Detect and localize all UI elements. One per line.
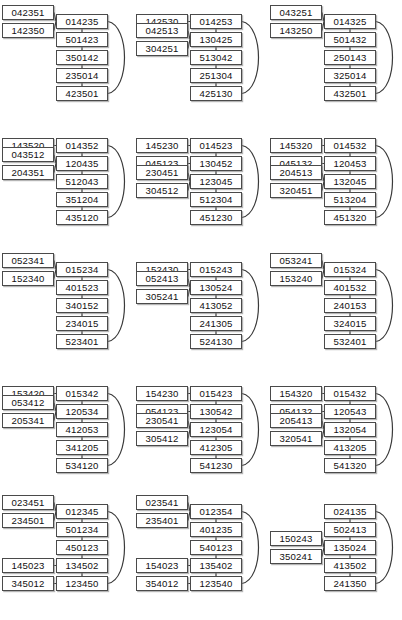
branch-node: 143250 <box>270 23 322 38</box>
branch-node: 152340 <box>2 271 54 286</box>
branch-node: 052341 <box>2 253 54 268</box>
branch-node: 042513 <box>136 23 188 38</box>
spine-node: 413052 <box>190 298 242 313</box>
wrap-edge <box>376 270 393 342</box>
spine-node: 014253 <box>190 14 242 29</box>
branch-node: 154320 <box>270 386 322 401</box>
spine-node: 123540 <box>190 576 242 591</box>
wrap-edge <box>376 512 393 584</box>
branch-node: 043512 <box>2 147 54 162</box>
branch-node: 150243 <box>270 531 322 546</box>
branch-node: 052413 <box>136 271 188 286</box>
spine-node: 413205 <box>324 440 376 455</box>
spine-node: 130425 <box>190 32 242 47</box>
wrap-edge <box>108 270 125 342</box>
spine-node: 532401 <box>324 334 376 349</box>
spine-node: 340152 <box>56 298 108 313</box>
wrap-edge <box>242 146 259 218</box>
spine-node: 120435 <box>56 156 108 171</box>
spine-node: 435120 <box>56 210 108 225</box>
branch-node: 354012 <box>136 576 188 591</box>
spine-node: 432501 <box>324 86 376 101</box>
branch-node: 320541 <box>270 431 322 446</box>
branch-node: 234501 <box>2 513 54 528</box>
wrap-edge <box>108 22 125 94</box>
diagram-panel: 0142531304255130422513044251301425300425… <box>134 0 268 124</box>
spine-node: 251304 <box>190 68 242 83</box>
diagram-panel: 0143255014322501433250144325010432511432… <box>268 0 402 124</box>
spine-node: 120453 <box>324 156 376 171</box>
spine-node: 123054 <box>190 422 242 437</box>
spine-node: 513204 <box>324 192 376 207</box>
spine-node: 130542 <box>190 404 242 419</box>
wrap-edge <box>242 270 259 342</box>
spine-node: 015432 <box>324 386 376 401</box>
branch-node: 304251 <box>136 41 188 56</box>
spine-node: 132045 <box>324 174 376 189</box>
branch-node: 154023 <box>136 558 188 573</box>
diagram-panel: 0154231305421230544123055412301542300541… <box>134 372 268 490</box>
branch-node: 204513 <box>270 165 322 180</box>
spine-node: 451230 <box>190 210 242 225</box>
spine-node: 015234 <box>56 262 108 277</box>
branch-node: 145320 <box>270 138 322 153</box>
spine-node: 012345 <box>56 504 108 519</box>
spine-node: 120543 <box>324 404 376 419</box>
diagram-grid: 0142355014233501422350144235010423511423… <box>0 0 402 620</box>
spine-node: 534120 <box>56 458 108 473</box>
wrap-edge <box>108 394 125 466</box>
wrap-edge <box>376 146 393 218</box>
spine-node: 451320 <box>324 210 376 225</box>
branch-node: 305241 <box>136 289 188 304</box>
branch-node: 042351 <box>2 5 54 20</box>
spine-node: 502413 <box>324 522 376 537</box>
spine-node: 513042 <box>190 50 242 65</box>
branch-node: 345012 <box>2 576 54 591</box>
branch-node: 153240 <box>270 271 322 286</box>
branch-node: 350241 <box>270 549 322 564</box>
diagram-panel: 0123544012355401231354021235400235412354… <box>134 490 268 620</box>
spine-node: 541320 <box>324 458 376 473</box>
wrap-edge <box>242 394 259 466</box>
spine-node: 541230 <box>190 458 242 473</box>
spine-node: 250143 <box>324 50 376 65</box>
spine-node: 501423 <box>56 32 108 47</box>
spine-node: 014523 <box>190 138 242 153</box>
spine-node: 015342 <box>56 386 108 401</box>
spine-node: 425130 <box>190 86 242 101</box>
spine-node: 134502 <box>56 558 108 573</box>
branch-node: 230451 <box>136 165 188 180</box>
branch-node: 023451 <box>2 495 54 510</box>
spine-node: 135024 <box>324 540 376 555</box>
spine-node: 501234 <box>56 522 108 537</box>
branch-node: 145230 <box>136 138 188 153</box>
diagram-panel: 0142355014233501422350144235010423511423… <box>0 0 134 124</box>
branch-node: 304512 <box>136 183 188 198</box>
wrap-edge <box>242 22 259 94</box>
branch-node: 204351 <box>2 165 54 180</box>
spine-node: 450123 <box>56 540 108 555</box>
spine-node: 123045 <box>190 174 242 189</box>
spine-node: 351204 <box>56 192 108 207</box>
diagram-panel: 0123455012344501231345021234500234512345… <box>0 490 134 620</box>
diagram-panel: 0145321204531320455132044513201453200451… <box>268 124 402 248</box>
branch-node: 053412 <box>2 395 54 410</box>
branch-node: 230541 <box>136 413 188 428</box>
spine-node: 240153 <box>324 298 376 313</box>
branch-node: 205341 <box>2 413 54 428</box>
spine-node: 241305 <box>190 316 242 331</box>
spine-node: 401523 <box>56 280 108 295</box>
branch-node: 235401 <box>136 513 188 528</box>
spine-node: 120534 <box>56 404 108 419</box>
spine-node: 132054 <box>324 422 376 437</box>
branch-node: 320451 <box>270 183 322 198</box>
spine-node: 524130 <box>190 334 242 349</box>
spine-node: 512304 <box>190 192 242 207</box>
branch-node: 145023 <box>2 558 54 573</box>
spine-node: 130452 <box>190 156 242 171</box>
spine-node: 523401 <box>56 334 108 349</box>
spine-node: 341205 <box>56 440 108 455</box>
diagram-panel: 0153421205344120533412055341201534200534… <box>0 372 134 490</box>
wrap-edge <box>108 512 125 584</box>
diagram-panel: 0145231304521230455123044512301452300451… <box>134 124 268 248</box>
